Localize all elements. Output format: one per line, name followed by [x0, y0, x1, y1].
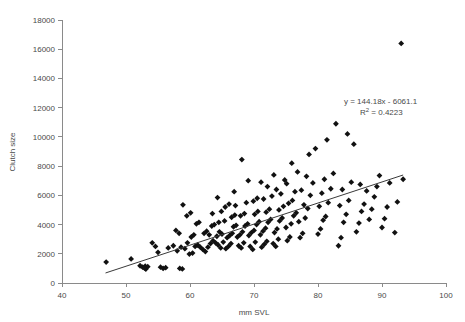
- data-point-marker: [215, 195, 221, 201]
- data-point-marker: [361, 201, 367, 207]
- data-point-marker: [330, 171, 336, 177]
- data-point-marker: [155, 249, 161, 255]
- data-point-marker: [318, 226, 324, 232]
- data-point-marker: [292, 189, 298, 195]
- data-point-marker: [400, 176, 406, 182]
- data-point-marker: [398, 40, 404, 46]
- data-point-marker: [243, 200, 249, 206]
- y-tick-label: 18000: [33, 16, 56, 25]
- data-point-marker: [233, 203, 239, 209]
- data-point-marker: [394, 199, 400, 205]
- data-point-marker: [369, 206, 375, 212]
- data-point-marker: [289, 160, 295, 166]
- data-point-marker: [354, 229, 360, 235]
- data-markers: [103, 40, 406, 272]
- data-point-marker: [275, 236, 281, 242]
- scatter-chart: 0200040006000800010000120001400016000180…: [0, 0, 465, 322]
- data-point-marker: [387, 180, 393, 186]
- y-tick-label: 6000: [37, 191, 55, 200]
- y-tick-label: 10000: [33, 133, 56, 142]
- data-point-marker: [278, 191, 284, 197]
- data-point-marker: [274, 187, 280, 193]
- data-point-marker: [298, 187, 304, 193]
- x-axis-ticks: 405060708090100: [58, 283, 454, 300]
- data-point-marker: [271, 172, 277, 178]
- x-axis-title: mm SVL: [239, 308, 270, 317]
- data-point-marker: [319, 190, 325, 196]
- data-point-marker: [258, 179, 264, 185]
- data-point-marker: [313, 146, 319, 152]
- data-point-marker: [210, 211, 216, 217]
- plot-svg: 0200040006000800010000120001400016000180…: [0, 0, 465, 322]
- data-point-marker: [359, 209, 365, 215]
- data-point-marker: [333, 121, 339, 127]
- data-point-marker: [364, 188, 370, 194]
- y-tick-label: 16000: [33, 45, 56, 54]
- data-point-marker: [341, 219, 347, 225]
- data-point-marker: [339, 187, 345, 193]
- data-point-marker: [283, 225, 289, 231]
- data-point-marker: [165, 245, 171, 251]
- data-point-marker: [245, 178, 251, 184]
- data-point-marker: [392, 230, 398, 236]
- data-point-marker: [276, 207, 282, 213]
- data-point-marker: [252, 239, 258, 245]
- data-point-marker: [351, 141, 357, 147]
- data-point-marker: [281, 203, 287, 209]
- data-point-marker: [377, 173, 383, 179]
- data-point-marker: [304, 173, 310, 179]
- data-point-marker: [338, 235, 344, 241]
- regression-equation-label: y = 144.18x - 6061.1: [344, 97, 418, 106]
- y-axis-ticks: 0200040006000800010000120001400016000180…: [33, 16, 62, 288]
- data-point-marker: [322, 176, 328, 182]
- data-point-marker: [356, 220, 362, 226]
- data-point-marker: [337, 203, 343, 209]
- data-point-marker: [265, 184, 271, 190]
- data-point-marker: [296, 219, 302, 225]
- y-tick-label: 12000: [33, 104, 56, 113]
- data-point-marker: [315, 231, 321, 237]
- data-point-marker: [384, 204, 390, 210]
- data-point-marker: [288, 221, 294, 227]
- y-tick-label: 8000: [37, 162, 55, 171]
- data-point-marker: [357, 181, 363, 187]
- data-point-marker: [307, 192, 313, 198]
- y-tick-label: 14000: [33, 74, 56, 83]
- x-tick-label: 70: [250, 291, 259, 300]
- y-axis-title: Clutch size: [8, 132, 17, 172]
- data-point-marker: [241, 240, 247, 246]
- x-tick-label: 40: [58, 291, 67, 300]
- data-point-marker: [261, 196, 267, 202]
- data-point-marker: [128, 256, 134, 262]
- data-point-marker: [302, 215, 308, 221]
- data-point-marker: [366, 217, 372, 223]
- y-tick-label: 0: [51, 279, 56, 288]
- r-squared-label: R2 = 0.4223: [360, 107, 403, 117]
- data-point-marker: [336, 243, 342, 249]
- y-tick-label: 2000: [37, 250, 55, 259]
- data-point-marker: [371, 194, 377, 200]
- y-tick-label: 4000: [37, 221, 55, 230]
- data-point-marker: [170, 243, 176, 249]
- data-point-marker: [345, 131, 351, 137]
- data-point-marker: [343, 211, 349, 217]
- data-point-marker: [379, 225, 385, 231]
- data-point-marker: [218, 209, 224, 215]
- data-point-marker: [382, 216, 388, 222]
- x-tick-label: 80: [314, 291, 323, 300]
- data-point-marker: [269, 193, 275, 199]
- data-point-marker: [222, 218, 228, 224]
- x-tick-label: 100: [439, 291, 453, 300]
- data-point-marker: [310, 180, 316, 186]
- data-point-marker: [103, 259, 109, 265]
- data-point-marker: [239, 157, 245, 163]
- data-point-marker: [348, 179, 354, 185]
- data-point-marker: [346, 198, 352, 204]
- x-tick-label: 60: [186, 291, 195, 300]
- x-tick-label: 50: [122, 291, 131, 300]
- data-point-marker: [180, 202, 186, 208]
- data-point-marker: [231, 189, 237, 195]
- data-point-marker: [295, 169, 301, 175]
- x-tick-label: 90: [378, 291, 387, 300]
- data-point-marker: [324, 137, 330, 143]
